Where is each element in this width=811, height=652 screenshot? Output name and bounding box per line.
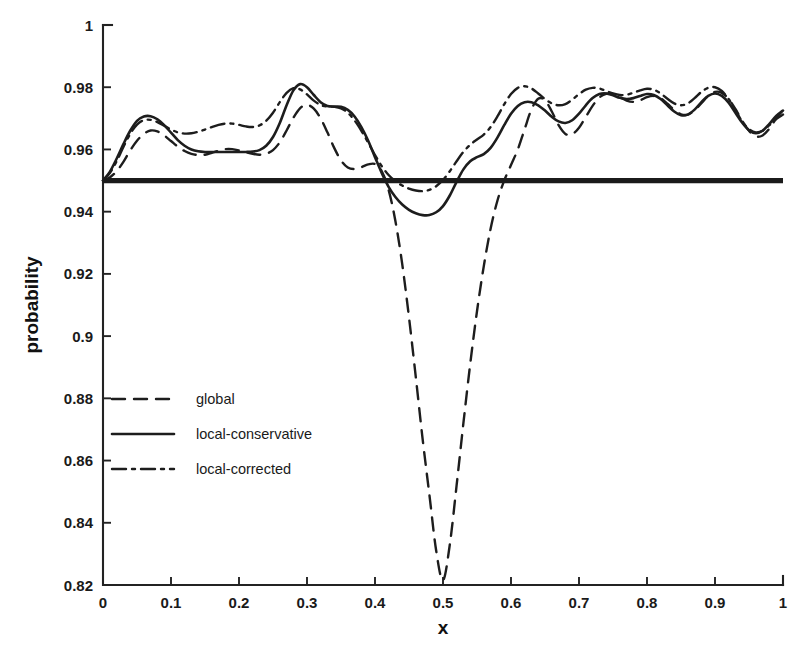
x-tick-label: 0.8 <box>637 594 658 611</box>
data-series-group <box>103 84 783 580</box>
series-local-corrected <box>103 86 783 191</box>
y-tick-label: 0.82 <box>64 577 93 594</box>
legend-label-local-conservative: local-conservative <box>196 426 312 442</box>
legend-label-local-corrected: local-corrected <box>196 461 291 477</box>
x-tick-label: 0 <box>99 594 107 611</box>
x-axis-tick-labels: 00.10.20.30.40.50.60.70.80.91 <box>99 594 787 611</box>
x-tick-label: 0.2 <box>229 594 250 611</box>
x-axis-title: x <box>438 617 449 638</box>
y-tick-label: 0.88 <box>64 390 93 407</box>
y-tick-label: 0.84 <box>64 514 94 531</box>
x-tick-label: 0.9 <box>705 594 726 611</box>
y-tick-label: 0.92 <box>64 265 93 282</box>
legend: globallocal-conservativelocal-corrected <box>112 391 312 477</box>
x-tick-label: 0.7 <box>569 594 590 611</box>
x-tick-label: 0.3 <box>297 594 318 611</box>
y-tick-label: 1 <box>85 17 93 34</box>
chart-figure: 00.10.20.30.40.50.60.70.80.91 0.820.840.… <box>0 0 811 652</box>
y-tick-label: 0.96 <box>64 141 93 158</box>
x-tick-label: 0.5 <box>433 594 454 611</box>
axis-spines <box>103 25 783 585</box>
series-global <box>103 92 783 581</box>
legend-label-global: global <box>196 391 235 407</box>
y-tick-label: 0.9 <box>72 328 93 345</box>
y-axis-tick-labels: 0.820.840.860.880.90.920.940.960.981 <box>64 17 94 594</box>
x-tick-label: 0.1 <box>161 594 182 611</box>
y-tick-label: 0.86 <box>64 452 93 469</box>
y-tick-label: 0.98 <box>64 79 93 96</box>
y-axis-title: probability <box>21 256 42 354</box>
x-tick-label: 1 <box>779 594 787 611</box>
chart-canvas: 00.10.20.30.40.50.60.70.80.91 0.820.840.… <box>0 0 811 652</box>
y-tick-label: 0.94 <box>64 203 94 220</box>
plot-frame <box>103 25 783 585</box>
x-tick-label: 0.6 <box>501 594 522 611</box>
x-tick-label: 0.4 <box>365 594 387 611</box>
y-axis-ticks <box>103 25 111 585</box>
series-local-conservative <box>103 84 783 215</box>
